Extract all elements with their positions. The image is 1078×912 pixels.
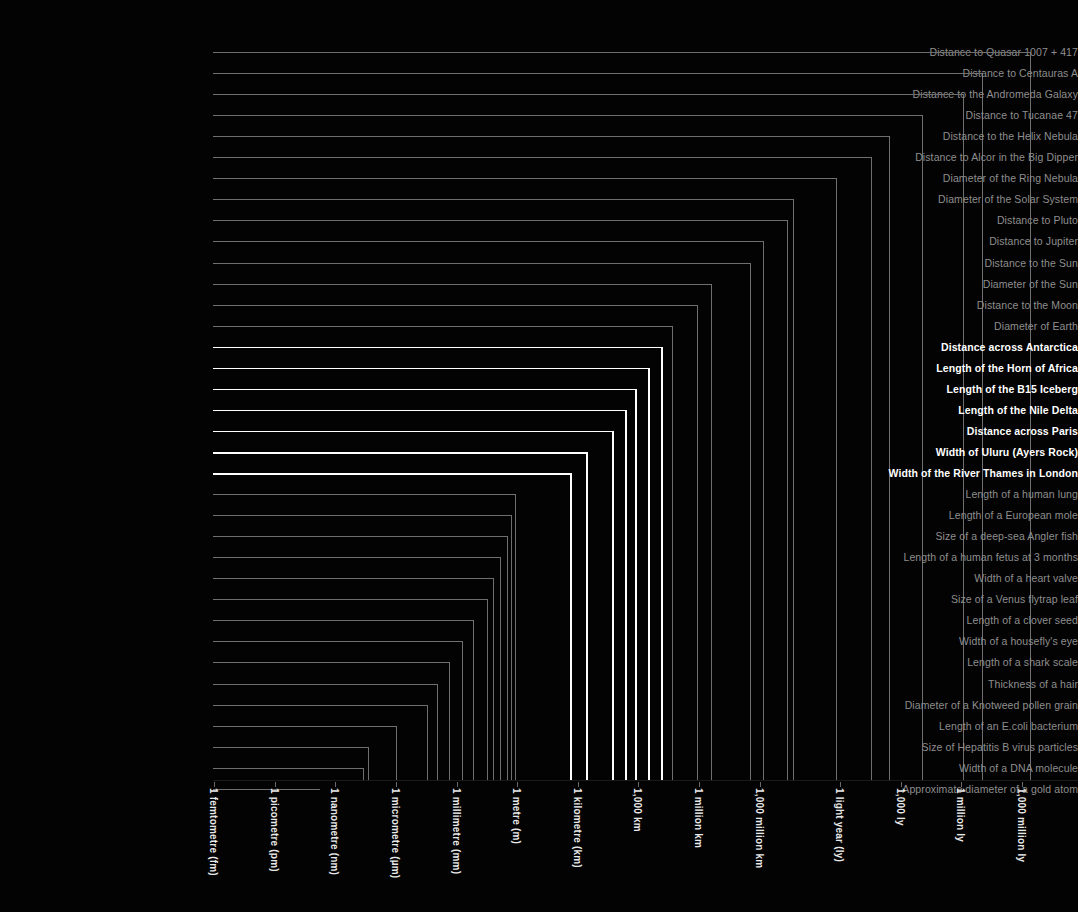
row-label: Size of Hepatitis B virus particles	[869, 737, 1078, 758]
chart-row: Distance to Alcor in the Big Dipper	[0, 147, 1078, 168]
leader-line	[213, 641, 462, 642]
row-label: Width of a DNA molecule	[869, 758, 1078, 779]
leader-line	[213, 326, 672, 327]
chart-row: Diameter of the Sun	[0, 274, 1078, 295]
leader-line	[213, 578, 493, 579]
row-label: Thickness of a hair	[869, 674, 1078, 695]
chart-row: Distance across Paris	[0, 421, 1078, 442]
chart-row: Thickness of a hair	[0, 674, 1078, 695]
leader-line	[213, 473, 570, 475]
axis-tick	[901, 782, 902, 787]
leader-line	[213, 410, 625, 412]
leader-line	[213, 620, 473, 621]
axis-tick	[335, 782, 336, 787]
axis-tick-label: 1,000 million ly	[1016, 788, 1027, 862]
leader-line	[213, 347, 661, 349]
chart-row: Width of a housefly's eye	[0, 631, 1078, 652]
leader-line	[213, 220, 787, 221]
row-label: Distance to Jupiter	[869, 231, 1078, 252]
row-label: Length of a human fetus at 3 months	[869, 547, 1078, 568]
leader-line	[213, 536, 507, 537]
chart-row: Diameter of Earth	[0, 316, 1078, 337]
row-label: Size of a Venus flytrap leaf	[869, 589, 1078, 610]
axis-tick-label: 1 picometre (pm)	[269, 788, 280, 872]
row-label: Width of the River Thames in London	[869, 463, 1078, 484]
axis-tick-label: 1 nanometre (nm)	[329, 788, 340, 875]
axis-tick	[760, 782, 761, 787]
axis-tick	[961, 782, 962, 787]
leader-line	[213, 73, 982, 74]
leader-line	[213, 136, 889, 137]
axis-tick	[578, 782, 579, 787]
chart-row: Length of the B15 Iceberg	[0, 379, 1078, 400]
leader-line	[213, 52, 1030, 53]
leader-line	[213, 494, 515, 495]
axis-tick	[638, 782, 639, 787]
chart-row: Width of a heart valve	[0, 568, 1078, 589]
leader-line	[213, 789, 320, 790]
leader-line	[213, 515, 511, 516]
row-label: Distance across Paris	[869, 421, 1078, 442]
leader-line	[213, 768, 363, 769]
chart-row: Distance across Antarctica	[0, 337, 1078, 358]
axis-tick-label: 1 metre (m)	[511, 788, 522, 844]
leader-line	[213, 263, 750, 264]
leader-line	[213, 178, 836, 179]
axis-tick	[275, 782, 276, 787]
row-label: Diameter of Earth	[869, 316, 1078, 337]
chart-row: Distance to Tucanae 47	[0, 105, 1078, 126]
axis-tick-label: 1,000 km	[632, 788, 643, 832]
leader-line	[213, 241, 763, 242]
leader-line	[213, 284, 711, 285]
row-label: Width of Uluru (Ayers Rock)	[869, 442, 1078, 463]
axis-tick-label: 1 kilometre (km)	[572, 788, 583, 868]
chart-row: Length of a human lung	[0, 484, 1078, 505]
chart-row: Length of a human fetus at 3 months	[0, 547, 1078, 568]
chart-row: Size of Hepatitis B virus particles	[0, 737, 1078, 758]
leader-line	[213, 389, 635, 391]
chart-row: Distance to Pluto	[0, 210, 1078, 231]
axis-tick-label: 1,000 million km	[754, 788, 765, 868]
chart-row: Length of the Horn of Africa	[0, 358, 1078, 379]
row-label: Distance to Alcor in the Big Dipper	[869, 147, 1078, 168]
row-label: Length of a clover seed	[869, 610, 1078, 631]
scale-of-universe-chart: Distance to Quasar 1007 + 417Distance to…	[0, 0, 1078, 912]
axis-tick-label: 1 micrometre (µm)	[390, 788, 401, 878]
leader-line	[213, 557, 500, 558]
row-label: Length of the Horn of Africa	[869, 358, 1078, 379]
chart-row: Length of a clover seed	[0, 610, 1078, 631]
row-label: Width of a heart valve	[869, 568, 1078, 589]
axis-tick-label: 1 million ly	[955, 788, 966, 842]
axis-tick	[840, 782, 841, 787]
chart-row: Width of a DNA molecule	[0, 758, 1078, 779]
chart-row: Width of the River Thames in London	[0, 463, 1078, 484]
axis-tick-label: 1,000 ly	[895, 788, 906, 826]
leader-line	[213, 157, 871, 158]
row-label: Length of the B15 Iceberg	[869, 379, 1078, 400]
row-label: Length of the Nile Delta	[869, 400, 1078, 421]
row-label: Distance across Antarctica	[869, 337, 1078, 358]
chart-row: Distance to Quasar 1007 + 417	[0, 42, 1078, 63]
row-label: Size of a deep-sea Angler fish	[869, 526, 1078, 547]
chart-row: Approximate diameter of a gold atom	[0, 779, 1078, 800]
chart-row: Diameter of the Solar System	[0, 189, 1078, 210]
chart-row: Diameter of a Knotweed pollen grain	[0, 695, 1078, 716]
axis-tick-label: 1 millimetre (mm)	[451, 788, 462, 874]
row-label: Diameter of the Solar System	[869, 189, 1078, 210]
row-label: Diameter of the Sun	[869, 274, 1078, 295]
leader-line	[213, 199, 793, 200]
leader-line	[213, 452, 586, 454]
chart-row: Size of a Venus flytrap leaf	[0, 589, 1078, 610]
row-label: Distance to Pluto	[869, 210, 1078, 231]
chart-row: Distance to the Sun	[0, 253, 1078, 274]
chart-row: Width of Uluru (Ayers Rock)	[0, 442, 1078, 463]
chart-row: Size of a deep-sea Angler fish	[0, 526, 1078, 547]
row-label: Length of an E.coli bacterium	[869, 716, 1078, 737]
row-label: Distance to the Helix Nebula	[869, 126, 1078, 147]
leader-line	[213, 726, 396, 727]
chart-row: Length of the Nile Delta	[0, 400, 1078, 421]
chart-row: Distance to Centauras A	[0, 63, 1078, 84]
row-label: Length of a human lung	[869, 484, 1078, 505]
chart-row: Distance to the Moon	[0, 295, 1078, 316]
row-label: Width of a housefly's eye	[869, 631, 1078, 652]
